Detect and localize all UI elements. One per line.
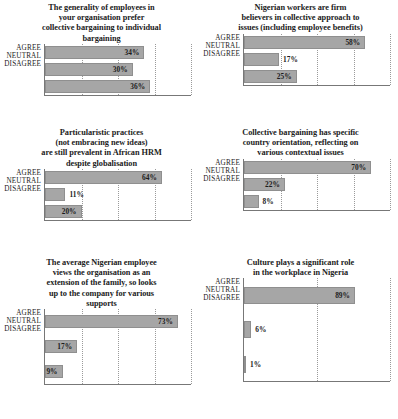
category-label: AGREE: [199, 34, 240, 42]
title-line: are still prevalent in African HRM: [14, 148, 189, 158]
category-axis-6: AGREE NEUTRAL DISAGREE: [199, 278, 243, 302]
title-line: issues (including employee benefits): [213, 23, 388, 33]
bar-value-label: 36%: [130, 82, 149, 91]
chart-title-3: Particularistic practices (not embracing…: [0, 125, 199, 169]
category-label: DISAGREE: [199, 50, 240, 58]
category-axis-1: AGREE NEUTRAL DISAGREE: [0, 44, 44, 68]
title-line: The average Nigerian employee: [14, 258, 189, 268]
category-label: DISAGREE: [0, 185, 41, 193]
bar-neutral: 30%: [45, 63, 133, 76]
bar-neutral: [45, 188, 65, 201]
bar-value-label: 17%: [57, 342, 76, 351]
category-label: AGREE: [0, 309, 41, 317]
category-axis-3: AGREE NEUTRAL DISAGREE: [0, 169, 44, 193]
bar-value-label: 1%: [246, 360, 261, 369]
plot-wrap-1: AGREE NEUTRAL DISAGREE 34%: [0, 44, 199, 125]
category-label: NEUTRAL: [199, 286, 240, 294]
bar-value-label: 73%: [158, 317, 177, 326]
category-label: DISAGREE: [0, 60, 41, 68]
plot-wrap-2: AGREE NEUTRAL DISAGREE 58%: [199, 34, 398, 125]
category-axis-5: AGREE NEUTRAL DISAGREE: [0, 309, 44, 333]
gridline: [191, 169, 192, 220]
gridline: [390, 34, 391, 85]
bar-value-label: 11%: [65, 190, 83, 199]
bar-agree: 70%: [244, 161, 371, 174]
plot-wrap-6: AGREE NEUTRAL DISAGREE 89% 6%: [199, 278, 398, 419]
bar-row: 9%: [45, 365, 191, 379]
chart-panel-1: The generality of employees in your orga…: [0, 0, 199, 125]
gridline: [191, 44, 192, 95]
title-line: views the organisation as an: [14, 268, 189, 278]
bar-neutral: 17%: [45, 340, 77, 353]
bar-value-label: 17%: [279, 55, 298, 64]
chart-title-1: The generality of employees in your orga…: [0, 0, 199, 44]
bar-agree: 64%: [45, 171, 162, 184]
chart-panel-3: Particularistic practices (not embracing…: [0, 125, 199, 255]
category-axis-4: AGREE NEUTRAL DISAGREE: [199, 159, 243, 183]
bar-agree: 89%: [244, 287, 355, 304]
bar-row: 58%: [244, 35, 390, 49]
title-line: supports: [14, 299, 189, 309]
bar-value-label: 30%: [113, 65, 132, 74]
plot-area-5: 73% 17% 9%: [44, 309, 191, 385]
title-line: in the workplace in Nigeria: [213, 268, 388, 278]
bar-disagree: [244, 356, 246, 373]
plot-area-4: 70% 22% 8%: [243, 159, 390, 211]
title-line: up to the company for various: [14, 289, 189, 299]
plot-wrap-3: AGREE NEUTRAL DISAGREE 64%: [0, 169, 199, 255]
bar-value-label: 20%: [62, 207, 81, 216]
title-line: (not embracing new ideas): [14, 138, 189, 148]
bar-row: 64%: [45, 170, 191, 184]
gridline: [390, 159, 391, 210]
chart-title-2: Nigerian workers are firm believers in c…: [199, 0, 398, 34]
category-axis-2: AGREE NEUTRAL DISAGREE: [199, 34, 243, 58]
bar-value-label: 70%: [351, 163, 370, 172]
title-line: believers in collective approach to: [213, 13, 388, 23]
bar-row: 17%: [45, 340, 191, 354]
title-line: Particularistic practices: [14, 128, 189, 138]
bar-disagree: 25%: [244, 70, 297, 83]
bar-row: 70%: [244, 160, 390, 174]
bar-row: 73%: [45, 315, 191, 329]
bar-row: 25%: [244, 69, 390, 83]
bar-value-label: 8%: [259, 197, 274, 206]
chart-grid: The generality of employees in your orga…: [0, 0, 398, 419]
bar-row: 36%: [45, 79, 191, 93]
plot-area-1: 34% 30% 36%: [44, 44, 191, 96]
chart-title-5: The average Nigerian employee views the …: [0, 255, 199, 309]
bar-value-label: 6%: [251, 325, 266, 334]
category-label: DISAGREE: [199, 294, 240, 302]
chart-panel-6: Culture plays a significant role in the …: [199, 255, 398, 419]
category-label: DISAGREE: [199, 175, 240, 183]
bar-agree: 58%: [244, 36, 365, 49]
bar-neutral: [244, 53, 279, 66]
category-label: NEUTRAL: [199, 42, 240, 50]
bar-value-label: 58%: [345, 38, 364, 47]
chart-title-6: Culture plays a significant role in the …: [199, 255, 398, 278]
plot-wrap-4: AGREE NEUTRAL DISAGREE 70%: [199, 159, 398, 255]
title-line: your organisation prefer: [14, 13, 189, 23]
bar-disagree: [244, 195, 259, 208]
title-line: various contextual issues: [213, 148, 388, 158]
bar-row: 6%: [244, 321, 390, 339]
bar-row: 22%: [244, 177, 390, 191]
chart-panel-4: Collective bargaining has specific count…: [199, 125, 398, 255]
category-label: AGREE: [199, 278, 240, 286]
bar-agree: 34%: [45, 46, 144, 59]
bar-value-label: 34%: [124, 48, 143, 57]
chart-title-4: Collective bargaining has specific count…: [199, 125, 398, 159]
title-line: Culture plays a significant role: [213, 258, 388, 268]
bar-agree: 73%: [45, 315, 178, 328]
bar-row: 20%: [45, 204, 191, 218]
bar-row: 34%: [45, 45, 191, 59]
title-line: despite globalisation: [14, 159, 189, 169]
category-label: NEUTRAL: [0, 177, 41, 185]
bar-row: 11%: [45, 187, 191, 201]
bar-row: 30%: [45, 62, 191, 76]
title-line: Nigerian workers are firm: [213, 3, 388, 13]
title-line: country orientation, reflecting on: [213, 138, 388, 148]
category-label: NEUTRAL: [0, 317, 41, 325]
category-label: DISAGREE: [0, 325, 41, 333]
bar-disagree: 20%: [45, 205, 82, 218]
bar-disagree: 9%: [45, 365, 63, 378]
